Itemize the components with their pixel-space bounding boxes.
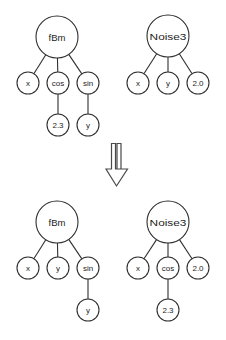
tree-node-c2-root[interactable]: Noise3 — [147, 201, 189, 243]
tree-node-c1-y2[interactable]: y — [77, 299, 99, 321]
tree-nodes-child-1: fBmxysiny — [17, 201, 99, 321]
double-down-arrow-icon — [106, 144, 128, 187]
tree-node-c1-sin[interactable]: sin — [77, 257, 99, 279]
tree-node-c1-x[interactable]: x — [17, 257, 39, 279]
tree-node-p2-root[interactable]: Noise3 — [147, 15, 189, 57]
node-label: sin — [83, 79, 93, 88]
node-label: Noise3 — [150, 31, 187, 42]
tree-edge — [144, 54, 157, 74]
node-label: sin — [83, 264, 93, 273]
tree-node-c2-20[interactable]: 2.0 — [187, 257, 209, 279]
node-label: 2.0 — [192, 264, 204, 273]
node-label: cos — [162, 264, 174, 273]
tree-edge — [34, 240, 46, 259]
tree-edge — [69, 239, 82, 258]
tree-node-c1-root[interactable]: fBm — [36, 201, 78, 243]
node-label: x — [136, 264, 140, 273]
tree-node-p1-23[interactable]: 2.3 — [47, 114, 69, 136]
node-label: 2.3 — [162, 306, 174, 315]
node-label: Noise3 — [150, 217, 187, 228]
node-label: x — [26, 79, 30, 88]
node-label: y — [56, 264, 60, 273]
crossover-figure: fBmxcossin2.3yNoise3xy2.0fBmxysinyNoise3… — [0, 0, 226, 340]
node-label: y — [86, 121, 90, 130]
node-label: cos — [52, 79, 64, 88]
tree-node-p2-x[interactable]: x — [127, 72, 149, 94]
node-label: 2.3 — [52, 121, 64, 130]
node-label: x — [26, 264, 30, 273]
node-label: fBm — [49, 217, 66, 228]
tree-node-p1-cos[interactable]: cos — [47, 72, 69, 94]
tree-nodes-parent-1: fBmxcossin2.3y — [17, 16, 99, 136]
tree-node-p1-root[interactable]: fBm — [36, 16, 78, 58]
tree-edge — [179, 54, 192, 74]
node-label: y — [166, 79, 170, 88]
crossover-arrow — [106, 144, 128, 187]
tree-node-p1-x[interactable]: x — [17, 72, 39, 94]
tree-node-p1-y[interactable]: y — [77, 114, 99, 136]
tree-node-c2-cos[interactable]: cos — [157, 257, 179, 279]
tree-node-p2-20[interactable]: 2.0 — [187, 72, 209, 94]
tree-nodes-parent-2: Noise3xy2.0 — [127, 15, 209, 94]
node-label: x — [136, 79, 140, 88]
tree-node-p2-y[interactable]: y — [157, 72, 179, 94]
node-label: fBm — [49, 32, 66, 43]
tree-nodes-child-2: Noise3xcos2.02.3 — [127, 201, 209, 321]
node-label: y — [86, 306, 90, 315]
tree-node-c1-y[interactable]: y — [47, 257, 69, 279]
tree-diagram-canvas: fBmxcossin2.3yNoise3xy2.0fBmxysinyNoise3… — [0, 0, 226, 340]
node-label: 2.0 — [192, 79, 204, 88]
tree-edge — [34, 55, 46, 74]
tree-edge — [144, 240, 157, 259]
tree-edge — [69, 54, 82, 73]
tree-node-c2-x[interactable]: x — [127, 257, 149, 279]
tree-edge — [179, 240, 192, 259]
tree-node-c2-23[interactable]: 2.3 — [157, 299, 179, 321]
tree-node-p1-sin[interactable]: sin — [77, 72, 99, 94]
